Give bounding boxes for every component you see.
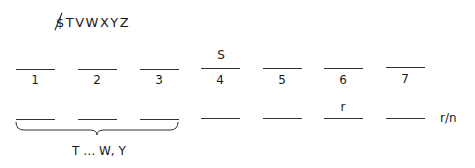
brace-icon	[0, 0, 475, 168]
brace-label: T … W, Y	[72, 144, 126, 158]
